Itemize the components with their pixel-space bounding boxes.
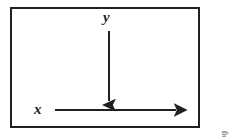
figure-root: y x © 2013 Cengage Learning [0, 0, 230, 137]
y-axis-label: y [103, 10, 110, 25]
x-axis-label: x [34, 102, 42, 117]
copyright-credit: © 2013 Cengage Learning [219, 131, 228, 137]
